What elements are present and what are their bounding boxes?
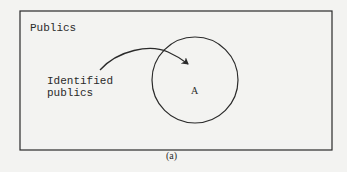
diagram-canvas: Publics A Identified publics (a) [0, 0, 347, 172]
annotation-line-1: Identified [47, 75, 113, 87]
set-a-circle [152, 37, 238, 123]
venn-diagram: Publics A Identified publics (a) [0, 0, 347, 172]
figure-caption: (a) [166, 150, 177, 162]
set-a-label: A [191, 85, 199, 96]
annotation-line-2: publics [47, 87, 93, 99]
curved-arrow-icon [100, 49, 188, 70]
publics-label: Publics [30, 22, 76, 34]
